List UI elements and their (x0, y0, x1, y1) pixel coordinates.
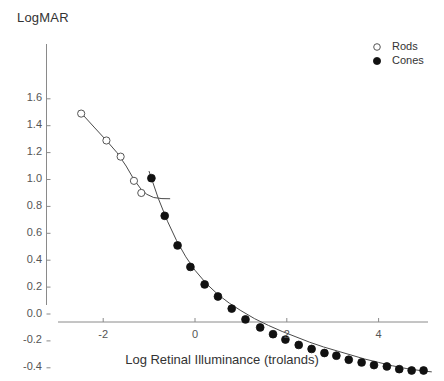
y-tick-label: 1.4 (8, 118, 42, 130)
data-point-cones (161, 212, 169, 220)
x-tick-label: -2 (83, 328, 123, 340)
y-tick-label: 1.0 (8, 172, 42, 184)
legend-label-rods: Rods (392, 40, 418, 52)
y-tick-label: 0.8 (8, 199, 42, 211)
data-point-cones (228, 305, 236, 313)
data-point-rods (138, 189, 145, 196)
data-point-cones (358, 359, 366, 367)
y-tick-label: 0.2 (8, 280, 42, 292)
data-point-rods (78, 110, 85, 117)
data-point-cones (201, 281, 209, 289)
data-point-cones (383, 363, 391, 371)
data-point-cones (370, 361, 378, 369)
data-point-cones (308, 345, 316, 353)
x-tick-label: 2 (267, 328, 307, 340)
x-tick-label: 4 (359, 328, 399, 340)
data-point-cones (148, 174, 156, 182)
legend-marker-rods (374, 44, 381, 51)
x-tick-label: 0 (175, 328, 215, 340)
data-point-cones (345, 356, 353, 364)
data-point-cones (256, 324, 264, 332)
y-tick-label: 0.6 (8, 226, 42, 238)
chart-figure: LogMAR Log Retinal Illuminance (trolands… (0, 0, 444, 381)
y-tick-label: -0.4 (8, 360, 42, 372)
data-point-cones (214, 293, 222, 301)
data-point-cones (295, 341, 303, 349)
y-tick-label: 1.2 (8, 145, 42, 157)
data-point-cones (321, 349, 329, 357)
data-point-cones (395, 365, 403, 373)
y-tick-label: 1.6 (8, 91, 42, 103)
series-fit-curve-cones (149, 171, 431, 371)
data-point-cones (174, 242, 182, 250)
data-point-cones (187, 263, 195, 271)
plot-area (0, 0, 444, 381)
data-point-cones (242, 315, 250, 323)
data-point-rods (117, 153, 124, 160)
y-tick-label: 0.0 (8, 307, 42, 319)
y-tick-label: 0.4 (8, 253, 42, 265)
y-tick-label: -0.2 (8, 333, 42, 345)
data-point-cones (420, 367, 428, 375)
series-fit-curve-rods (79, 111, 169, 199)
data-point-cones (332, 352, 340, 360)
data-point-rods (130, 177, 137, 184)
data-point-cones (408, 367, 416, 375)
legend-label-cones: Cones (392, 54, 424, 66)
legend-marker-cones (373, 57, 380, 64)
data-point-rods (103, 137, 110, 144)
